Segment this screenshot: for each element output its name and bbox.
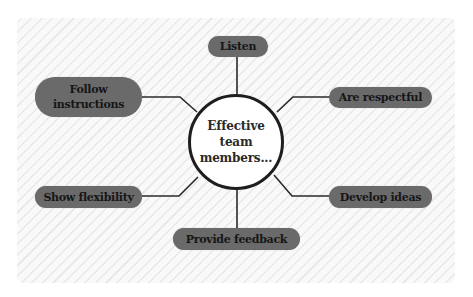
node-label: Listen xyxy=(220,40,256,53)
connector-show-flexibility xyxy=(142,177,198,196)
node-provide-feedback: Provide feedback xyxy=(173,228,300,250)
center-label: Effective team members... xyxy=(196,118,276,166)
node-listen: Listen xyxy=(208,36,268,57)
node-label: Develop ideas xyxy=(340,191,421,204)
node-label: Show flexibility xyxy=(43,191,133,204)
node-label: Follow instructions xyxy=(53,82,124,112)
node-label: Are respectful xyxy=(339,91,422,104)
node-are-respectful: Are respectful xyxy=(329,87,432,108)
node-label: Provide feedback xyxy=(186,233,287,246)
connector-follow-instructions xyxy=(142,97,197,112)
node-follow-instructions: Follow instructions xyxy=(35,77,142,117)
center-node: Effective team members... xyxy=(188,94,284,190)
connector-are-respectful xyxy=(277,97,330,112)
node-develop-ideas: Develop ideas xyxy=(329,186,432,208)
node-show-flexibility: Show flexibility xyxy=(35,186,142,208)
connector-develop-ideas xyxy=(274,175,330,196)
